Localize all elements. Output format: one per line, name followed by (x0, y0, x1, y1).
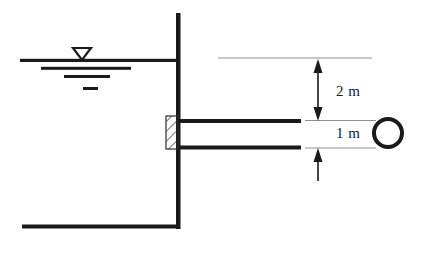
outlet-pipe (178, 119, 301, 150)
arrowhead-down-icon (314, 107, 323, 121)
water-symbol-line-3 (64, 75, 110, 78)
pipe-top-wall (178, 119, 301, 123)
lower-dimension-arrow (314, 148, 323, 181)
hatched-gate (166, 116, 178, 149)
arrowhead-up-icon (314, 148, 323, 162)
upper-dimension-label: 2 m (336, 83, 360, 99)
hydraulic-diagram: 2 m 1 m (0, 0, 421, 254)
upper-dimension-arrow (314, 59, 323, 121)
pipe-cross-section-circle (374, 119, 402, 147)
diagram-canvas: 2 m 1 m (0, 0, 421, 254)
water-symbol-line-4 (83, 87, 98, 90)
lower-dimension-label: 1 m (336, 125, 360, 141)
reservoir-structure (22, 13, 181, 229)
water-level-triangle-icon (73, 48, 91, 60)
arrowhead-up-icon (314, 59, 323, 73)
pipe-bottom-wall (178, 146, 301, 150)
water-surface-symbol (20, 48, 178, 90)
floor-line (22, 225, 180, 229)
water-surface-line (20, 59, 178, 62)
water-symbol-line-2 (41, 67, 131, 70)
